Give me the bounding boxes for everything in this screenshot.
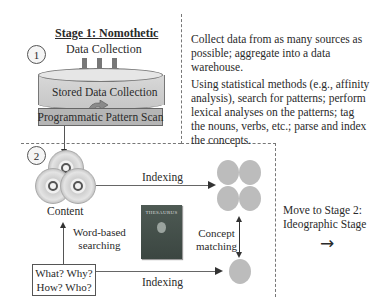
- concept-matching-line: [239, 218, 240, 254]
- indexing-top-line: [96, 185, 208, 186]
- next-stage-label: Move to Stage 2: Ideographic Stage: [283, 203, 366, 231]
- indexing-bottom-label: Indexing: [142, 276, 183, 288]
- question-line1: What? Why?: [33, 266, 95, 280]
- search-line: [63, 228, 64, 264]
- pattern-scan-box: Programmatic Pattern Scan: [38, 108, 163, 126]
- indexing-top-label: Indexing: [142, 171, 183, 183]
- stage1-description-collect: Collect data from as many sources as pos…: [191, 32, 371, 74]
- arrow-right-icon: [208, 181, 216, 189]
- concept-matching-label: Concept matching: [196, 227, 237, 253]
- book-emblem-icon: [157, 222, 166, 233]
- concept-blob: [217, 186, 239, 211]
- stage1-description-analysis: Using statistical methods (e.g., affinit…: [191, 77, 371, 147]
- next-stage-line1: Move to Stage 2:: [283, 203, 366, 217]
- arrow-up-icon: [60, 222, 66, 228]
- stage2-number-badge: 2: [27, 146, 46, 165]
- concept-blob: [239, 160, 261, 185]
- stage1-title: Stage 1: Nomothetic: [55, 26, 158, 41]
- content-label: Content: [47, 205, 83, 217]
- stored-data-label: Stored Data Collection: [52, 86, 157, 98]
- book-title: THESAURUS: [141, 210, 182, 215]
- concept-blob: [239, 186, 261, 211]
- divider: [181, 14, 182, 144]
- next-stage-line2: Ideographic Stage: [283, 217, 366, 231]
- arrow-up-icon: [236, 216, 242, 222]
- concept-label-line1: Concept: [196, 227, 237, 240]
- word-search-label: Word-based searching: [73, 226, 126, 252]
- disc-icon: [60, 168, 96, 204]
- question-box: What? Why? How? Who?: [32, 264, 96, 296]
- concept-label-line2: matching: [196, 240, 237, 253]
- thesaurus-book-image: THESAURUS: [141, 205, 182, 259]
- question-line2: How? Who?: [33, 280, 95, 294]
- word-search-line2: searching: [73, 239, 126, 252]
- right-arrow-icon: →: [320, 233, 334, 253]
- concept-blob: [217, 160, 239, 185]
- divider: [21, 143, 181, 144]
- query-concept-blob: [229, 259, 251, 284]
- divider: [275, 143, 276, 297]
- indexing-bottom-line: [96, 271, 221, 272]
- data-collection-label: Data Collection: [66, 42, 142, 57]
- database-cylinder-top: [38, 68, 163, 82]
- word-search-line1: Word-based: [73, 226, 126, 239]
- arrow-right-icon: [215, 267, 223, 275]
- stage1-number-badge: 1: [27, 45, 46, 64]
- connector-line: [64, 126, 65, 151]
